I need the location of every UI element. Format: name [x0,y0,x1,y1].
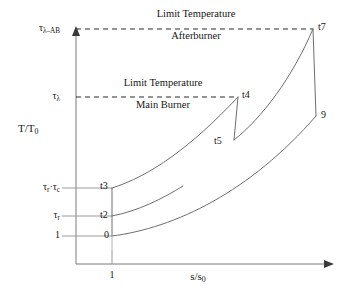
x-axis-title: s/s0 [190,271,206,284]
tau-subscript: λ [57,95,61,103]
path-ambient-0-9 [112,116,316,236]
y-tick-label-tau-r-tau-c: τr·τc [43,182,60,194]
y-tick-label-tau-lambda-ab: τλ–AB [39,23,60,35]
state-point-label-t7: t7 [318,22,326,32]
tau-dot: ·τ [49,181,56,192]
y-axis-title: T/T0 [18,123,38,136]
tau-subscript: λ–AB [43,27,60,35]
y-tick-label-one: 1 [55,230,60,240]
x-tick-label-one: 1 [110,270,115,280]
y-tick-label-tau-lambda: τλ [52,91,60,103]
annotation-main-burner-limit-line1: Limit Temperature [124,78,203,89]
state-point-label-t4: t4 [242,90,250,100]
state-point-label-t5: t5 [214,136,222,146]
state-point-label-0: 0 [104,230,109,240]
x-axis-arrowhead [324,260,334,268]
y-axis-title-subscript: 0 [35,127,39,136]
y-axis-title-main: T/T [18,122,35,134]
path-nozzle-t7-9 [313,29,316,116]
path-fan-stream-t2 [112,186,183,216]
tau-subscript-2: c [57,186,60,194]
annotation-afterburner-limit-line2: Afterburner [171,31,221,42]
state-point-label-t2: t2 [100,210,108,220]
y-tick-label-tau-r: τr [54,210,60,222]
x-axis-title-subscript: 0 [202,275,206,284]
tau-subscript: r [58,214,60,222]
path-afterburner-t5-t7 [234,29,313,140]
state-point-label-t3: t3 [100,181,108,191]
annotation-main-burner-limit-line2: Main Burner [136,100,190,111]
path-turbine-t4-t5 [234,97,238,140]
plot-canvas [0,0,345,298]
y-axis-arrowhead [72,26,80,36]
annotation-afterburner-limit-line1: Limit Temperature [157,9,236,20]
axes-group [72,26,334,268]
ts-cycle-diagram: τλ–AB τλ τr·τc τr 1 T/T0 1 s/s0 Limit Te… [0,0,345,298]
x-axis-title-main: s/s [190,270,202,282]
state-point-label-9: 9 [321,110,326,120]
